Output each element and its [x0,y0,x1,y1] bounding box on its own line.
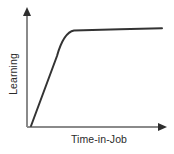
chart-canvas: Time-in-Job Learning [0,0,174,154]
y-axis-label: Learning [7,53,19,95]
learning-curve-chart: Time-in-Job Learning [0,0,174,154]
chart-background [0,0,174,154]
x-axis-label: Time-in-Job [71,133,127,145]
